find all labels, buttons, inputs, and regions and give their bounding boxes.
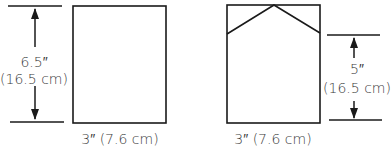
left-panel: 6.5″ (16.5 cm) 3″ (7.6 cm) <box>0 6 166 147</box>
right-panel: 5″ (16.5 cm) 3″ (7.6 cm) <box>227 5 391 147</box>
pattern-diagram: 6.5″ (16.5 cm) 3″ (7.6 cm) 5″ (16.5 cm) … <box>0 0 392 148</box>
right-width-label: 3″ (7.6 cm) <box>234 131 311 147</box>
right-height-metric: (16.5 cm) <box>323 80 391 96</box>
right-arrow-down-icon <box>350 101 358 119</box>
right-arrow-up-icon <box>350 37 358 58</box>
left-arrow-up-icon <box>31 8 39 47</box>
right-fold-chevron <box>227 5 320 34</box>
right-rectangle <box>227 5 320 123</box>
left-arrow-down-icon <box>31 86 39 120</box>
left-rectangle <box>73 6 166 123</box>
left-width-label: 3″ (7.6 cm) <box>81 131 158 147</box>
left-height-label: 6.5″ <box>20 54 47 70</box>
right-height-label: 5″ <box>350 61 364 77</box>
left-height-metric: (16.5 cm) <box>0 71 68 87</box>
